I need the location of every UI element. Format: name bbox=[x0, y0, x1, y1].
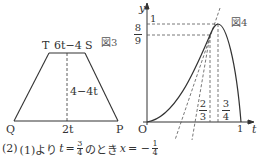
x-value-frac: 1 4 bbox=[152, 140, 158, 157]
frac-den: 4 bbox=[152, 149, 157, 157]
y-axis-label: y bbox=[139, 3, 145, 14]
x-axis-label: t bbox=[252, 124, 256, 135]
height-label: 4−4t bbox=[70, 86, 98, 97]
frac-num: 3 bbox=[77, 140, 82, 148]
figures-canvas bbox=[0, 0, 262, 159]
frac-num: 1 bbox=[152, 140, 157, 148]
bottom-label: 2t bbox=[62, 124, 73, 135]
figure4-caption: 図4 bbox=[231, 18, 247, 28]
frac-num: 2 bbox=[200, 99, 206, 109]
eq-sign: = bbox=[66, 142, 75, 155]
origin-label: O bbox=[138, 124, 147, 135]
part-label: (2) bbox=[2, 142, 18, 155]
guide-lines bbox=[147, 8, 220, 140]
x-tick-2-3: 2 3 bbox=[199, 99, 207, 122]
x-tick-1: 1 bbox=[237, 124, 243, 134]
solution-line: (2) (1)より t = 3 4 のとき x = − 1 4 bbox=[2, 140, 158, 157]
x-var: x bbox=[120, 142, 126, 155]
trapezoid bbox=[14, 53, 118, 121]
top-length-label: 6t−4 bbox=[54, 40, 82, 51]
vertex-t: T bbox=[42, 40, 49, 51]
eq-minus: = − bbox=[128, 142, 150, 155]
frac-num: 8 bbox=[135, 23, 141, 33]
vertex-q: Q bbox=[6, 124, 15, 135]
figure3-caption: 図3 bbox=[101, 38, 117, 48]
frac-num: 3 bbox=[223, 99, 229, 109]
t-var: t bbox=[59, 142, 63, 155]
middle-text: のとき bbox=[85, 141, 118, 157]
y-tick-1: 1 bbox=[150, 14, 156, 24]
vertex-s: S bbox=[85, 40, 93, 51]
frac-den: 3 bbox=[200, 112, 206, 122]
frac-den: 9 bbox=[135, 36, 141, 46]
x-tick-3-4: 3 4 bbox=[222, 99, 230, 122]
y-tick-8-9: 8 9 bbox=[134, 23, 142, 46]
frac-den: 4 bbox=[223, 112, 229, 122]
frac-den: 4 bbox=[77, 149, 82, 157]
vertex-p: P bbox=[116, 124, 123, 135]
t-value-frac: 3 4 bbox=[77, 140, 83, 157]
prefix-text: (1)より bbox=[20, 141, 58, 157]
